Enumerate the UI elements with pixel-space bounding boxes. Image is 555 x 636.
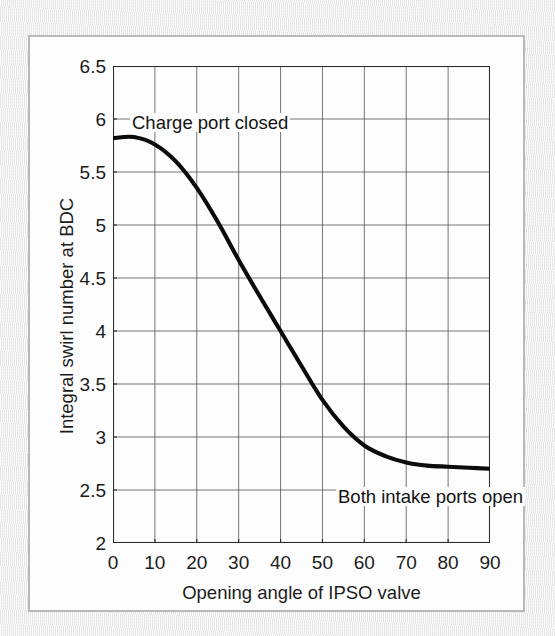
y-axis-tick-label: 4 [95,322,106,341]
x-axis-tick-label: 0 [108,553,119,572]
x-axis-tick-label: 90 [479,553,500,572]
figure-frame: 22.533.544.555.566.5 0102030405060708090… [28,35,525,612]
x-axis-tick-label: 70 [396,553,417,572]
y-axis-tick-label: 3 [95,428,106,447]
x-axis-tick-label: 60 [354,553,375,572]
y-axis-tick-label: 5 [95,216,106,235]
x-axis-title: Opening angle of IPSO valve [113,582,490,604]
y-axis-title: Integral swirl number at BDC [56,136,78,496]
y-axis-tick-label: 5.5 [80,163,106,182]
x-axis-tick-label: 20 [186,553,207,572]
axis-frame [114,67,490,543]
x-axis-tick-label: 40 [270,553,291,572]
x-axis-tick-labels: 0102030405060708090 [113,549,490,575]
y-axis-tick-label: 3.5 [80,375,106,394]
y-axis-title-wrap: Integral swirl number at BDC [38,66,64,543]
x-axis-tick-label: 10 [144,553,165,572]
annotation-charge-port-closed: Charge port closed [130,113,290,132]
x-axis-tick-label: 30 [228,553,249,572]
x-axis-tick-label: 80 [438,553,459,572]
plot-area [113,66,490,543]
y-axis-tick-label: 6 [95,110,106,129]
data-curve [113,137,490,469]
annotation-both-intake-ports-open: Both intake ports open [336,487,525,506]
plot-svg [113,66,490,543]
y-axis-tick-label: 4.5 [80,269,106,288]
x-axis-tick-label: 50 [312,553,333,572]
y-axis-tick-label: 6.5 [80,57,106,76]
swirl-number-line-chart: 22.533.544.555.566.5 0102030405060708090… [30,37,523,610]
y-axis-tick-label: 2 [95,534,106,553]
y-axis-tick-label: 2.5 [80,481,106,500]
